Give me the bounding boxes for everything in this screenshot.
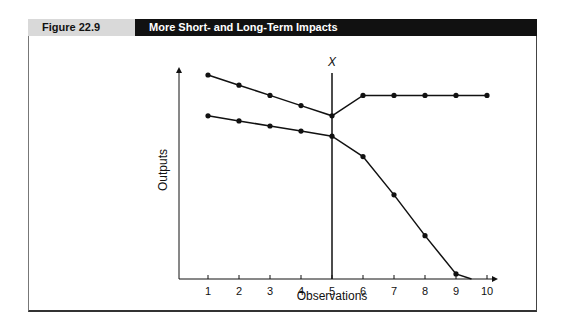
data-point (205, 113, 210, 118)
data-point (298, 103, 303, 108)
x-axis-label: Observations (297, 289, 368, 303)
data-point (422, 93, 427, 98)
series-line-upper (208, 75, 487, 116)
data-point (360, 154, 365, 159)
x-tick-label: 3 (267, 285, 273, 297)
chart: 12345678910 X Observations Outputs (0, 0, 565, 328)
x-tick-label: 9 (453, 285, 459, 297)
data-point (391, 192, 396, 197)
y-axis-label: Outputs (156, 149, 170, 191)
data-point (329, 113, 334, 118)
data-point (391, 93, 396, 98)
x-tick-label: 7 (391, 285, 397, 297)
data-point (267, 123, 272, 128)
x-ticks (208, 275, 487, 279)
x-tick-label: 8 (422, 285, 428, 297)
data-point (205, 72, 210, 77)
data-point (236, 83, 241, 88)
series-line-lower (208, 116, 472, 279)
data-point (329, 134, 334, 139)
data-point (453, 93, 458, 98)
data-point (453, 271, 458, 276)
x-tick-label: 2 (236, 285, 242, 297)
data-point (422, 233, 427, 238)
x-tick-label: 1 (205, 285, 211, 297)
series-lines (205, 72, 489, 279)
data-point (360, 93, 365, 98)
data-point (484, 93, 489, 98)
data-point (298, 129, 303, 134)
x-tick-label: 10 (481, 285, 493, 297)
data-point (267, 93, 272, 98)
intervention-label: X (327, 55, 337, 69)
data-point (236, 118, 241, 123)
